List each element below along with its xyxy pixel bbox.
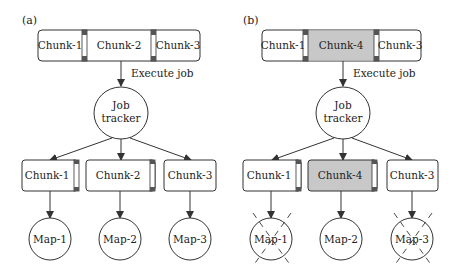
map-label: Map-2 [103,233,137,245]
chunk-separator [82,30,87,61]
map-b1-failed: Map-1 [250,213,292,266]
job-tracker-label: tracker [102,112,142,124]
file-chunk-label: Chunk-3 [378,39,423,51]
task-chunk-b2-highlighted: Chunk-4 [308,160,377,191]
diagram-canvas: (a) Chunk-1 Chunk-2 Chunk-3 Execute job [0,0,460,278]
panel-a-label: (a) [22,14,37,27]
map-b3-failed: Map-3 [391,213,433,266]
task-chunk-label: Chunk-1 [25,169,70,181]
dispatch-arrow [130,138,191,160]
file-bar-b: Chunk-1 Chunk-4 Chunk-3 [261,30,423,61]
execute-job-label: Execute job [131,67,194,79]
panel-b: (b) Chunk-1 Chunk-4 Chunk-3 Execute job … [243,14,438,266]
panel-a: (a) Chunk-1 Chunk-2 Chunk-3 Execute job [22,14,216,260]
job-tracker-b: Job tracker [316,87,370,139]
file-chunk-label: Chunk-1 [261,39,306,51]
map-label: Map-3 [173,233,207,245]
task-chunk-b3: Chunk-3 [387,160,438,191]
file-bar-a: Chunk-1 Chunk-2 Chunk-3 [38,30,201,61]
map-label: Map-1 [33,233,67,245]
map-a2: Map-2 [99,218,141,260]
panel-b-label: (b) [243,14,259,27]
task-chunk-label: Chunk-4 [318,169,363,181]
map-a1: Map-1 [29,218,71,260]
task-chunk-label: Chunk-3 [168,169,213,181]
task-chunk-b1: Chunk-1 [243,160,301,191]
map-label: Map-3 [395,233,429,245]
map-a3: Map-3 [169,218,211,260]
file-chunk-label: Chunk-2 [97,39,142,51]
task-chunk-label: Chunk-1 [247,169,292,181]
task-chunk-a2: Chunk-2 [86,160,155,191]
dispatch-arrow [352,138,412,160]
task-chunk-label: Chunk-2 [96,169,141,181]
task-chunk-a1: Chunk-1 [22,160,79,191]
file-chunk-label-highlighted: Chunk-4 [319,39,364,51]
file-chunk-label: Chunk-1 [38,39,83,51]
job-tracker-label: Job [111,99,130,111]
map-b2: Map-2 [320,218,362,260]
execute-job-label: Execute job [353,67,416,79]
task-chunk-a3: Chunk-3 [164,160,216,191]
file-chunk-label: Chunk-3 [156,39,201,51]
job-tracker-label: Job [333,99,352,111]
job-tracker-label: tracker [324,112,364,124]
map-label: Map-2 [324,233,358,245]
dispatch-arrow [272,138,334,160]
map-label: Map-1 [254,233,288,245]
dispatch-arrow [50,138,112,160]
task-chunk-label: Chunk-3 [390,169,435,181]
job-tracker-a: Job tracker [94,87,148,139]
